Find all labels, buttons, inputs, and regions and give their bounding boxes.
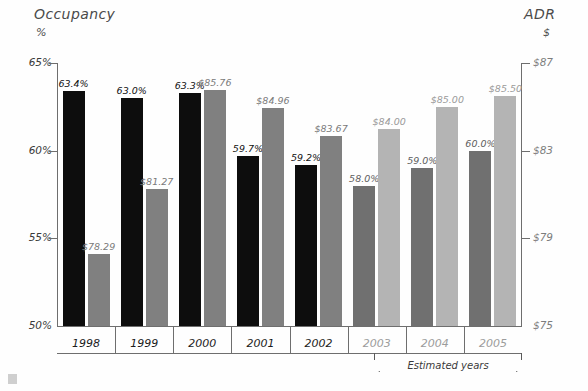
bar-label-occupancy: 59.0%	[405, 155, 439, 166]
year-separator	[348, 327, 349, 354]
bar-adr[interactable]	[436, 107, 458, 326]
bar-label-occupancy: 59.7%	[231, 143, 265, 154]
bar-occupancy[interactable]	[353, 186, 375, 326]
year-separator	[115, 327, 116, 354]
bar-occupancy[interactable]	[295, 165, 317, 326]
year-band-bottom-line	[57, 353, 522, 354]
bar-label-adr: $84.00	[371, 116, 407, 127]
bar-label-adr: $83.67	[313, 123, 349, 134]
corner-mark	[8, 374, 17, 384]
bar-occupancy[interactable]	[179, 93, 201, 326]
left-tick-mark	[49, 63, 57, 64]
bar-adr[interactable]	[378, 129, 400, 326]
bar-occupancy[interactable]	[411, 168, 433, 326]
bar-label-adr: $84.96	[255, 95, 291, 106]
bar-adr[interactable]	[262, 108, 284, 326]
year-separator	[290, 327, 291, 354]
bar-label-adr: $85.50	[487, 83, 523, 94]
left-axis-title: Occupancy	[34, 6, 115, 22]
year-separator	[231, 327, 232, 354]
right-tick-label: $87	[533, 56, 573, 68]
bar-occupancy[interactable]	[63, 91, 85, 326]
bar-occupancy[interactable]	[469, 151, 491, 326]
bar-adr[interactable]	[494, 96, 516, 326]
bar-label-occupancy: 63.4%	[57, 78, 91, 89]
right-tick-mark	[522, 151, 530, 152]
bar-adr[interactable]	[320, 136, 342, 326]
right-tick-label: $83	[533, 144, 573, 156]
bar-label-occupancy: 58.0%	[347, 173, 381, 184]
left-tick-label: 55%	[18, 231, 52, 243]
right-axis-unit: $	[543, 26, 550, 39]
bar-adr[interactable]	[146, 189, 168, 326]
bar-label-occupancy: 60.0%	[463, 138, 497, 149]
bar-occupancy[interactable]	[121, 98, 143, 326]
left-tick-mark	[49, 151, 57, 152]
right-tick-mark	[522, 63, 530, 64]
right-axis-title: ADR	[524, 6, 555, 22]
bar-label-occupancy: 63.0%	[115, 85, 149, 96]
bar-label-occupancy: 59.2%	[289, 152, 323, 163]
right-tick-label: $75	[533, 319, 573, 331]
bar-label-adr: $85.76	[197, 77, 233, 88]
left-tick-label: 60%	[18, 144, 52, 156]
right-tick-label: $79	[533, 231, 573, 243]
left-axis-unit: %	[36, 26, 46, 39]
bar-label-adr: $81.27	[139, 176, 175, 187]
bar-adr[interactable]	[204, 90, 226, 326]
bar-occupancy[interactable]	[237, 156, 259, 326]
year-separator	[173, 327, 174, 354]
left-tick-label: 50%	[18, 319, 52, 331]
estimated-years-label: Estimated years	[374, 360, 522, 371]
chart-container: Occupancy % ADR $ 65%60%55%50% $87$83$79…	[0, 0, 588, 391]
bar-label-adr: $78.29	[81, 241, 117, 252]
bar-adr[interactable]	[88, 254, 110, 326]
left-tick-label: 65%	[18, 56, 52, 68]
left-tick-mark	[49, 238, 57, 239]
bar-label-adr: $85.00	[429, 94, 465, 105]
year-separator	[464, 327, 465, 354]
year-separator	[406, 327, 407, 354]
plot-area: 63.4%$78.2963.0%$81.2763.3%$85.7659.7%$8…	[57, 63, 522, 326]
right-tick-mark	[522, 238, 530, 239]
